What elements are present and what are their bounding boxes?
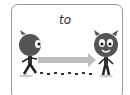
arrow-icon <box>38 53 96 67</box>
illustration <box>0 0 130 95</box>
walking-character-icon <box>19 30 41 78</box>
footprints-icon <box>40 72 92 75</box>
standing-character-icon <box>94 30 118 78</box>
